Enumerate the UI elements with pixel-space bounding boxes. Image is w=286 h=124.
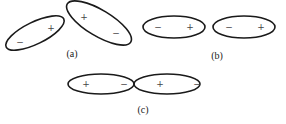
panel-c-label: (c) [137, 104, 148, 116]
panel-a-lobe-1 [1, 9, 68, 57]
panel-a-lobe-1-plus-sign: + [47, 23, 55, 33]
panel-c-lobe-1-minus-sign: − [120, 79, 128, 89]
panel-a-label: (a) [66, 48, 77, 60]
panel-c: + − + − (c) [68, 74, 201, 116]
panel-b: − + − + (b) [143, 16, 275, 62]
panel-a-lobe-2-plus-sign: + [80, 12, 88, 22]
panel-a-lobe-2-minus-sign: − [112, 28, 120, 38]
panel-b-lobe-1-plus-sign: + [186, 22, 194, 32]
panel-a-lobe-2 [61, 0, 138, 53]
panel-b-lobe-1-minus-sign: − [154, 22, 162, 32]
panel-b-lobe-2 [213, 16, 275, 38]
panel-c-lobe-2-plus-sign: + [156, 79, 164, 89]
panel-b-lobe-2-plus-sign: + [257, 22, 265, 32]
panel-c-lobe-2 [134, 74, 200, 94]
orbital-overlap-diagram: + − + − (a) − + − + (b) + − + − (c) [0, 0, 286, 124]
panel-c-lobe-1-plus-sign: + [82, 79, 90, 89]
panel-b-lobe-2-minus-sign: − [225, 22, 233, 32]
panel-b-lobe-1 [143, 16, 205, 38]
panel-a: + − + − (a) [1, 0, 137, 60]
panel-b-label: (b) [211, 50, 223, 62]
panel-a-lobe-1-minus-sign: − [16, 37, 24, 47]
panel-c-lobe-2-minus-sign: − [193, 79, 201, 89]
